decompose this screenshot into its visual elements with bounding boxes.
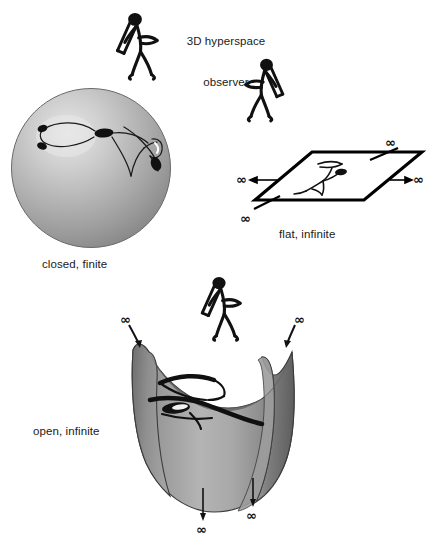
infinity-open-bottom-right: ∞ <box>246 509 257 522</box>
infinity-flat-bottom-left: ∞ <box>240 212 251 225</box>
observer-label-line2: observer <box>160 76 292 90</box>
observer-label: 3D hyperspace observer <box>160 8 292 116</box>
flat-infinite-label: flat, infinite <box>279 228 335 242</box>
infinity-flat-right: ∞ <box>413 173 424 186</box>
open-infinite-label: open, infinite <box>33 425 100 439</box>
infinity-open-top-right: ∞ <box>294 313 305 326</box>
infinity-open-bottom-left: ∞ <box>196 523 207 536</box>
infinity-open-top-left: ∞ <box>120 313 131 326</box>
infinity-flat-left: ∞ <box>236 173 247 186</box>
observer-label-line1: 3D hyperspace <box>160 35 292 49</box>
closed-finite-label: closed, finite <box>42 258 107 272</box>
cosmology-geometry-figure: 3D hyperspace observer closed, finite fl… <box>0 0 426 547</box>
infinity-flat-top-right: ∞ <box>385 136 396 149</box>
